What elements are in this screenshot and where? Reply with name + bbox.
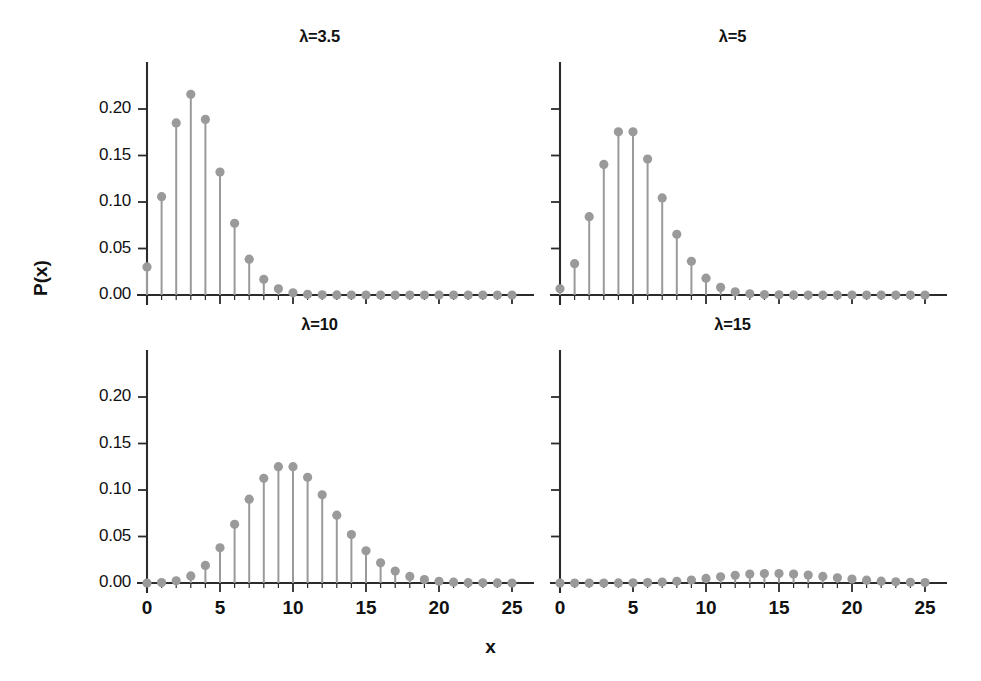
data-point (274, 462, 283, 471)
panel-lambda-10: λ=100.000.050.100.150.200510152025 (0, 0, 981, 681)
data-point (877, 577, 886, 586)
y-axis-label: P(x) (30, 260, 52, 296)
x-tick-label: 15 (341, 597, 391, 619)
y-tick-label: 0.20 (55, 98, 131, 118)
data-point (701, 274, 710, 283)
data-point (215, 167, 224, 176)
x-tick-label: 0 (122, 597, 172, 619)
data-point (599, 160, 608, 169)
data-point (405, 290, 414, 299)
data-point (186, 571, 195, 580)
data-point (687, 257, 696, 266)
data-point (376, 290, 385, 299)
data-point (585, 578, 594, 587)
data-point (172, 576, 181, 585)
data-point (701, 574, 710, 583)
data-point (906, 578, 915, 587)
x-tick-label: 5 (195, 597, 245, 619)
data-point (259, 474, 268, 483)
data-point (920, 290, 929, 299)
data-point (687, 575, 696, 584)
x-tick-label: 25 (900, 597, 950, 619)
panel-title-lambda-10: λ=10 (107, 315, 532, 334)
axes-lambda-10 (0, 0, 981, 681)
data-point (643, 578, 652, 587)
data-point (157, 578, 166, 587)
data-point (361, 290, 370, 299)
data-point (760, 569, 769, 578)
data-point (774, 290, 783, 299)
data-point (585, 212, 594, 221)
data-point (376, 558, 385, 567)
data-point (643, 154, 652, 163)
panel-title-lambda-3-5: λ=3.5 (107, 27, 532, 46)
data-point (891, 290, 900, 299)
data-point (449, 578, 458, 587)
x-tick-label: 20 (827, 597, 877, 619)
data-point (570, 259, 579, 268)
data-point (464, 578, 473, 587)
data-point (745, 569, 754, 578)
data-point (201, 115, 210, 124)
data-point (818, 572, 827, 581)
data-point (201, 561, 210, 570)
x-tick-label: 10 (681, 597, 731, 619)
data-point (906, 290, 915, 299)
data-point (318, 490, 327, 499)
data-point (186, 90, 195, 99)
data-point (142, 262, 151, 271)
data-point (420, 290, 429, 299)
data-point (157, 192, 166, 201)
y-tick-label: 0.05 (55, 526, 131, 546)
y-tick-label: 0.10 (55, 191, 131, 211)
y-tick-label: 0.00 (55, 572, 131, 592)
y-tick-label: 0.15 (55, 145, 131, 165)
data-point (391, 290, 400, 299)
data-point (507, 290, 516, 299)
y-tick-label: 0.10 (55, 479, 131, 499)
data-point (555, 578, 564, 587)
data-point (230, 219, 239, 228)
data-point (716, 283, 725, 292)
axes-lambda-3-5 (0, 0, 981, 681)
data-point (614, 127, 623, 136)
data-point (449, 290, 458, 299)
panel-lambda-3-5: λ=3.50.000.050.100.150.20 (0, 0, 981, 681)
panel-lambda-5: λ=5 (0, 0, 981, 681)
data-point (303, 473, 312, 482)
data-point (570, 578, 579, 587)
data-point (215, 543, 224, 552)
data-point (361, 546, 370, 555)
data-point (245, 255, 254, 264)
data-point (288, 288, 297, 297)
data-point (288, 462, 297, 471)
data-point (391, 566, 400, 575)
data-point (420, 575, 429, 584)
x-tick-label: 0 (535, 597, 585, 619)
panel-title-lambda-5: λ=5 (520, 27, 945, 46)
y-tick-label: 0.05 (55, 238, 131, 258)
data-point (493, 578, 502, 587)
x-tick-label: 15 (754, 597, 804, 619)
data-point (658, 577, 667, 586)
data-point (172, 118, 181, 127)
data-point (672, 230, 681, 239)
x-tick-label: 20 (414, 597, 464, 619)
data-point (332, 290, 341, 299)
data-point (833, 573, 842, 582)
data-point (745, 289, 754, 298)
data-point (614, 578, 623, 587)
axes-lambda-15 (0, 0, 981, 681)
data-point (716, 572, 725, 581)
data-point (493, 290, 502, 299)
data-point (274, 284, 283, 293)
data-point (804, 290, 813, 299)
data-point (891, 577, 900, 586)
data-point (142, 578, 151, 587)
y-tick-label: 0.15 (55, 433, 131, 453)
data-point (847, 574, 856, 583)
panel-lambda-15: λ=150510152025 (0, 0, 981, 681)
data-point (347, 530, 356, 539)
data-point (464, 290, 473, 299)
y-tick-label: 0.20 (55, 386, 131, 406)
